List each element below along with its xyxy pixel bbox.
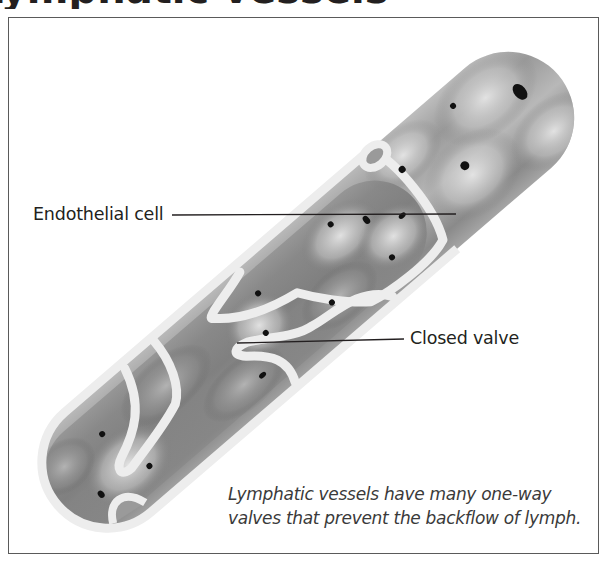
endothelial-cell-label: Endothelial cell [33,204,163,224]
closed-valve-label: Closed valve [410,328,519,348]
caption-line-2: valves that prevent the backflow of lymp… [228,506,581,530]
lymphatic-vessel-illustration [0,0,615,563]
caption-line-1: Lymphatic vessels have many one-way [228,482,581,506]
figure-caption: Lymphatic vessels have many one-way valv… [228,482,581,530]
